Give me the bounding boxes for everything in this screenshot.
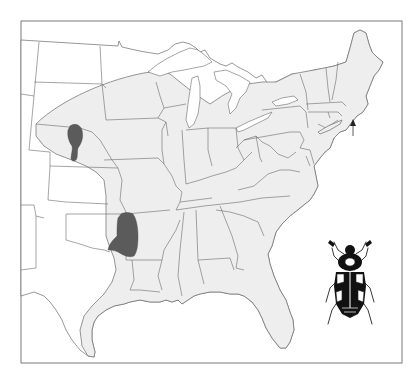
range-map bbox=[0, 0, 420, 379]
